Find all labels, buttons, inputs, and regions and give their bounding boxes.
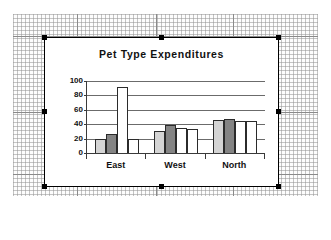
bar-group xyxy=(206,81,265,153)
x-axis-tickmark xyxy=(205,154,206,159)
selection-handle-middle-right[interactable] xyxy=(276,109,281,114)
bar-series-container xyxy=(87,81,265,153)
y-axis-tick-label: 60 xyxy=(74,106,83,114)
bar-group xyxy=(87,81,146,153)
x-axis-tickmark xyxy=(145,154,146,159)
y-axis-tick-label: 20 xyxy=(74,135,83,143)
plot-area xyxy=(86,81,265,154)
bar[interactable] xyxy=(187,129,198,153)
selection-handle-middle-left[interactable] xyxy=(42,109,47,114)
y-axis-tick-labels: 020406080100 xyxy=(55,81,83,153)
bar-group xyxy=(146,81,205,153)
bar[interactable] xyxy=(224,119,235,153)
y-axis-tick-label: 0 xyxy=(79,149,83,157)
bar[interactable] xyxy=(235,121,246,153)
selection-handle-bottom-center[interactable] xyxy=(159,184,164,189)
embedded-chart-object[interactable]: Pet Type Expenditures 020406080100 EastW… xyxy=(44,37,279,187)
x-axis-category-labels: EastWestNorth xyxy=(86,160,264,170)
bar[interactable] xyxy=(213,120,224,153)
bar[interactable] xyxy=(117,87,128,153)
y-axis-tick-label: 100 xyxy=(70,77,83,85)
plot-area-wrapper: 020406080100 EastWestNorth xyxy=(45,38,278,186)
selection-handle-top-right[interactable] xyxy=(276,35,281,40)
bar[interactable] xyxy=(95,139,106,153)
selection-handle-bottom-left[interactable] xyxy=(42,184,47,189)
selection-handle-bottom-right[interactable] xyxy=(276,184,281,189)
y-axis-tick-label: 40 xyxy=(74,120,83,128)
x-axis-category-label: East xyxy=(86,160,145,170)
bar[interactable] xyxy=(106,134,117,153)
bar[interactable] xyxy=(128,139,139,153)
x-axis-category-label: West xyxy=(145,160,204,170)
selection-handle-top-center[interactable] xyxy=(159,35,164,40)
x-axis-category-label: North xyxy=(205,160,264,170)
bar[interactable] xyxy=(176,128,187,153)
y-axis-tick-label: 80 xyxy=(74,91,83,99)
bar[interactable] xyxy=(246,121,257,153)
bar[interactable] xyxy=(165,125,176,153)
x-axis-tickmark xyxy=(264,154,265,159)
bar[interactable] xyxy=(154,131,165,153)
x-axis-tickmark xyxy=(86,154,87,159)
selection-handle-top-left[interactable] xyxy=(42,35,47,40)
